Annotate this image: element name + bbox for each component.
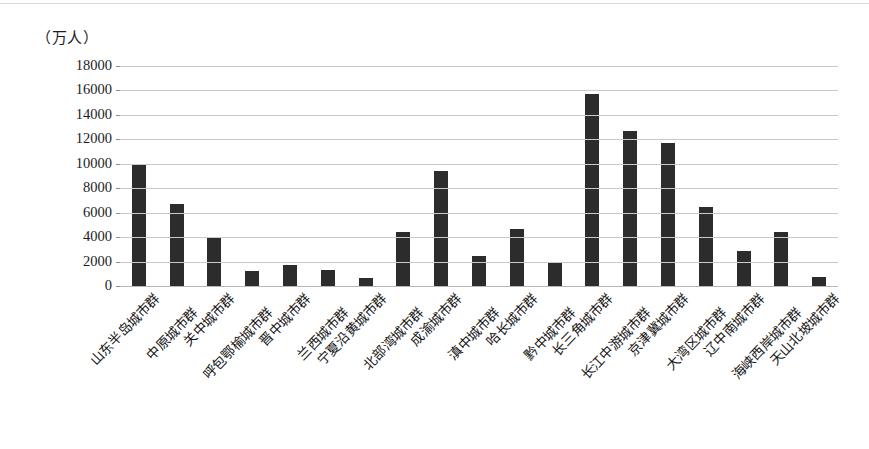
bar-series [120, 66, 838, 286]
gridline [120, 66, 838, 67]
bar [699, 207, 713, 286]
bar [132, 164, 146, 286]
gridline [120, 286, 838, 287]
y-axis-tick-labels: 1800016000140001200010000800060004000200… [34, 66, 112, 286]
y-axis-tick: 6000 [36, 204, 112, 221]
bar [812, 277, 826, 286]
gridline [120, 213, 838, 214]
bar-chart: （万人） 18000160001400012000100008000600040… [0, 0, 869, 449]
y-axis-tick: 12000 [36, 130, 112, 147]
y-axis-tick: 10000 [36, 155, 112, 172]
gridline [120, 139, 838, 140]
top-divider [0, 3, 869, 4]
gridline [120, 115, 838, 116]
gridline [120, 164, 838, 165]
gridline [120, 90, 838, 91]
plot-area [120, 66, 838, 286]
y-axis-tick: 16000 [36, 81, 112, 98]
y-axis-tick: 8000 [36, 179, 112, 196]
gridline [120, 237, 838, 238]
bar [170, 204, 184, 286]
bar [774, 232, 788, 286]
bar [585, 94, 599, 287]
bar [472, 256, 486, 286]
bar [283, 265, 297, 286]
bar [737, 251, 751, 286]
bar [396, 232, 410, 286]
bar [321, 270, 335, 287]
gridline [120, 188, 838, 189]
gridline [120, 262, 838, 263]
bar [245, 271, 259, 286]
y-axis-tick: 18000 [36, 57, 112, 74]
y-axis-tick: 0 [36, 277, 112, 294]
bar [359, 278, 373, 286]
x-axis-category-labels: 山东半岛城市群中原城市群关中城市群呼包鄂榆城市群晋中城市群兰西城市群宁夏沿黄城市… [120, 288, 838, 438]
bar [623, 131, 637, 286]
y-axis-tick: 14000 [36, 106, 112, 123]
y-axis-unit-label: （万人） [36, 26, 98, 47]
y-axis-tick: 4000 [36, 228, 112, 245]
y-axis-tick: 2000 [36, 253, 112, 270]
bar [548, 262, 562, 286]
